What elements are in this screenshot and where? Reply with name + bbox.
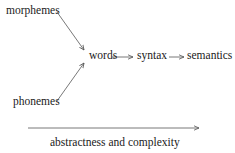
axis-label: abstractness and complexity xyxy=(50,137,180,149)
diagram-arrows xyxy=(0,0,235,153)
node-syntax: syntax xyxy=(137,50,167,62)
node-morphemes: morphemes xyxy=(6,5,60,17)
node-phonemes: phonemes xyxy=(13,96,60,108)
arrow-phonemes-to-words xyxy=(57,63,84,101)
node-semantics: semantics xyxy=(187,50,232,62)
arrow-morphemes-to-words xyxy=(57,12,84,50)
node-words: words xyxy=(89,50,117,62)
